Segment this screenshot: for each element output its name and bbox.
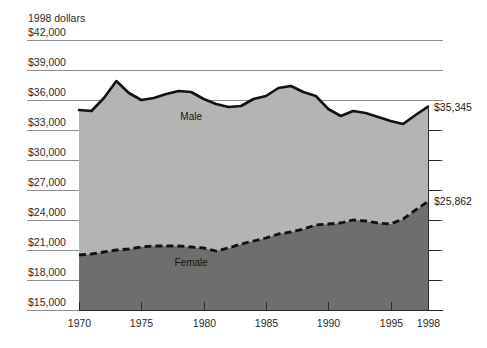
y-tick-label: $27,000 xyxy=(28,176,66,188)
y-tick-label: $42,000 xyxy=(28,26,66,38)
series-label-male: Male xyxy=(180,111,202,122)
series-label-female: Female xyxy=(174,257,208,268)
x-tick-label: 1985 xyxy=(255,317,279,329)
y-tick-label: $36,000 xyxy=(28,86,66,98)
x-tick-label: 1970 xyxy=(68,317,92,329)
x-tick-label: 1990 xyxy=(317,317,341,329)
x-tick-label: 1975 xyxy=(130,317,154,329)
y-tick-label: $39,000 xyxy=(28,56,66,68)
y-tick-label: $24,000 xyxy=(28,206,66,218)
x-tick-label: 1980 xyxy=(193,317,217,329)
x-tick-label: 1998 xyxy=(417,317,441,329)
chart-container: 1998 dollars $42,000$39,000$36,000$33,00… xyxy=(0,0,487,348)
median-earnings-area-chart: 1998 dollars $42,000$39,000$36,000$33,00… xyxy=(0,0,487,348)
end-value-label-female: $25,862 xyxy=(434,195,472,207)
end-value-label-male: $35,345 xyxy=(434,101,472,113)
y-axis-title: 1998 dollars xyxy=(28,12,85,24)
y-tick-label: $18,000 xyxy=(28,266,66,278)
y-tick-label: $21,000 xyxy=(28,236,66,248)
x-tick-label: 1995 xyxy=(380,317,404,329)
y-tick-label: $33,000 xyxy=(28,116,66,128)
y-tick-label: $30,000 xyxy=(28,146,66,158)
y-tick-label: $15,000 xyxy=(28,296,66,308)
